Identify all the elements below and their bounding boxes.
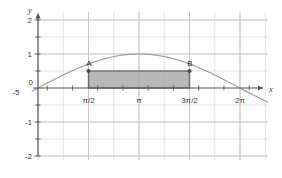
point-label-b: B bbox=[187, 59, 192, 68]
graph-figure: π/2π3π/22π21-1-20-5xyAB bbox=[0, 0, 282, 178]
shaded-region bbox=[89, 71, 190, 88]
y-tick-label: -1 bbox=[25, 118, 33, 127]
point-marker-a[interactable] bbox=[87, 69, 91, 73]
cartesian-plot: π/2π3π/22π21-1-20-5xyAB bbox=[0, 0, 282, 178]
y-tick-label: 1 bbox=[28, 50, 33, 59]
origin-label: 0 bbox=[29, 78, 34, 87]
x-axis-name: x bbox=[268, 84, 273, 94]
point-marker-b[interactable] bbox=[188, 69, 192, 73]
y-axis-name: y bbox=[27, 5, 32, 15]
x-tick-label: 2π bbox=[235, 96, 245, 105]
y-tick-label: -2 bbox=[25, 152, 33, 161]
x-axis-left-label: -5 bbox=[12, 88, 20, 97]
x-tick-label: π bbox=[136, 96, 142, 105]
point-label-a: A bbox=[86, 59, 92, 68]
y-tick-label: 2 bbox=[28, 16, 33, 25]
x-tick-label: π/2 bbox=[82, 96, 95, 105]
x-tick-label: 3π/2 bbox=[181, 96, 198, 105]
